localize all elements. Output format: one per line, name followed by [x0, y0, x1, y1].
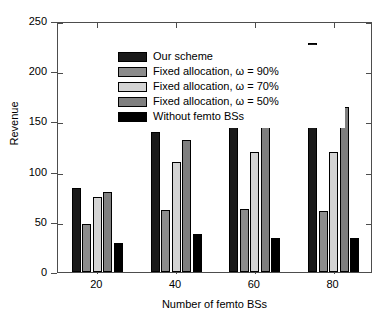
y-inner-tick-right — [366, 174, 371, 175]
legend-swatch-fixed-50 — [118, 97, 147, 107]
y-inner-tick-right — [366, 224, 371, 225]
x-tick-label: 20 — [76, 279, 116, 290]
bar — [350, 238, 359, 272]
legend-label-fixed-50: Fixed allocation, ω = 50% — [153, 96, 279, 107]
bar — [193, 234, 202, 272]
y-inner-tick-right — [366, 123, 371, 124]
y-tick-label: 50 — [7, 217, 47, 228]
bar — [329, 152, 338, 272]
legend-item-fixed-90: Fixed allocation, ω = 90% — [116, 64, 344, 79]
y-inner-tick — [58, 224, 63, 225]
legend-swatch-fixed-70 — [118, 82, 147, 92]
x-tick-label: 40 — [155, 279, 195, 290]
legend-swatch-without-femto — [118, 112, 147, 122]
legend: Our scheme Fixed allocation, ω = 90% Fix… — [115, 45, 345, 128]
legend-item-without-femto: Without femto BSs — [116, 109, 344, 124]
bar — [82, 224, 91, 272]
bar — [103, 192, 112, 272]
y-tick-label: 150 — [7, 116, 47, 127]
legend-item-fixed-50: Fixed allocation, ω = 50% — [116, 94, 344, 109]
plot-area: Our scheme Fixed allocation, ω = 90% Fix… — [57, 22, 372, 273]
bar — [340, 107, 349, 272]
x-tick-mark-top — [176, 23, 177, 28]
bar-chart: Revenue 050100150200250 Our scheme Fixed… — [0, 0, 390, 325]
legend-swatch-our-scheme — [118, 52, 147, 62]
x-tick-label: 60 — [234, 279, 274, 290]
y-inner-tick — [58, 174, 63, 175]
bar — [271, 238, 280, 272]
x-axis-title: Number of femto BSs — [57, 299, 372, 310]
x-tick-mark-top — [334, 23, 335, 28]
bar — [161, 210, 170, 272]
y-tick-label: 0 — [7, 267, 47, 278]
y-tick-label: 250 — [7, 16, 47, 27]
bar — [261, 110, 270, 272]
x-tick-mark-top — [97, 23, 98, 28]
bar — [151, 132, 160, 272]
bar — [182, 140, 191, 272]
bar — [93, 197, 102, 272]
y-inner-tick — [58, 73, 63, 74]
legend-label-fixed-70: Fixed allocation, ω = 70% — [153, 81, 279, 92]
bar — [250, 152, 259, 272]
y-inner-tick-right — [366, 73, 371, 74]
bar — [172, 162, 181, 272]
bar — [72, 188, 81, 272]
x-tick-label: 80 — [313, 279, 353, 290]
y-inner-tick — [58, 23, 63, 24]
legend-item-fixed-70: Fixed allocation, ω = 70% — [116, 79, 344, 94]
legend-label-without-femto: Without femto BSs — [153, 111, 244, 122]
y-tick-label: 100 — [7, 167, 47, 178]
y-inner-tick — [58, 123, 63, 124]
y-inner-tick-right — [366, 23, 371, 24]
bar — [114, 243, 123, 272]
x-tick-mark-top — [255, 23, 256, 28]
y-tick-label: 200 — [7, 66, 47, 77]
y-tick-mark — [51, 273, 57, 274]
legend-label-fixed-90: Fixed allocation, ω = 90% — [153, 66, 279, 77]
legend-swatch-fixed-90 — [118, 67, 147, 77]
bar — [240, 209, 249, 272]
legend-label-our-scheme: Our scheme — [153, 51, 213, 62]
bar — [319, 211, 328, 272]
legend-item-our-scheme: Our scheme — [116, 49, 344, 64]
